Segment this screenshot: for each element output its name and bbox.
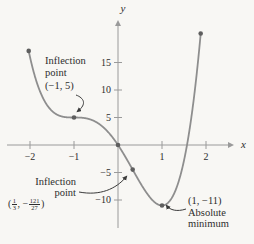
fraction-denominator: 3 [12, 204, 17, 211]
inflection2-coords: (13, −12127) [8, 198, 44, 211]
y-tick-label: −5 [81, 167, 111, 179]
fraction-121-27: 12127 [29, 198, 41, 211]
key-point-dot [72, 115, 77, 120]
inflection1-coords: (−1, 5) [45, 80, 86, 92]
paren-close: ) [41, 198, 44, 209]
fraction-denominator: 27 [29, 204, 41, 211]
minimum-text-line2: Absolute [188, 207, 229, 219]
y-tick-label: 5 [81, 112, 111, 124]
y-tick-label: −10 [81, 194, 111, 206]
minimum-text-line3: minimum [188, 218, 229, 230]
key-point-dot [130, 167, 135, 172]
inflection1-text-line2: point [45, 67, 86, 79]
inflection1-arrow [76, 95, 84, 111]
x-tick-label: −2 [18, 151, 42, 163]
minimum-coords: (1, −11) [188, 195, 229, 207]
inflection2-text-line2: point [8, 187, 76, 198]
x-tick-label: 2 [194, 151, 218, 163]
x-tick-label: 1 [150, 151, 174, 163]
minimum-arrow [167, 206, 186, 210]
key-point-dot [26, 49, 31, 54]
key-point-dot [160, 203, 165, 208]
inflection2-text-line1: Inflection [8, 176, 76, 187]
inflection1-text-line1: Inflection [45, 55, 86, 67]
key-point-dot [198, 31, 203, 36]
fraction-one-third: 13 [12, 198, 17, 211]
y-axis-label: y [117, 2, 129, 14]
function-graph-figure: y x Inflection point (−1, 5) Inflection … [0, 0, 254, 244]
x-axis-label: x [241, 138, 246, 150]
inflection2-arrow [79, 177, 126, 193]
inflection1-annotation: Inflection point (−1, 5) [45, 55, 86, 92]
paren-open: ( [8, 198, 11, 209]
minimum-annotation: (1, −11) Absolute minimum [188, 195, 229, 230]
y-tick-label: 10 [81, 84, 111, 96]
key-point-dot [116, 143, 121, 148]
x-tick-label: −1 [62, 151, 86, 163]
y-tick-label: 15 [81, 57, 111, 69]
coords-separator: , − [18, 198, 29, 209]
